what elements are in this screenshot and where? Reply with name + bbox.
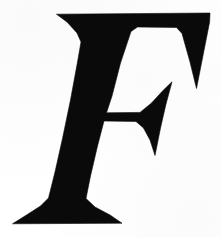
image-canvas: Large black decorative serif capital let…: [0, 0, 221, 237]
decorative-initial-f: Large black decorative serif capital let…: [0, 0, 221, 237]
